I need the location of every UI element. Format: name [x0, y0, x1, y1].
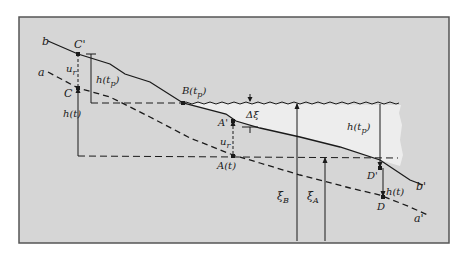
seepage-diagram: b b' a a' C' C B(tp) A' A(t) D' D ur h(t… [0, 0, 466, 271]
label-a-point: A(t) [216, 160, 236, 171]
label-a: a [38, 66, 45, 79]
label-a-prime-point: A' [217, 117, 228, 128]
point-d-prime [378, 166, 382, 170]
point-d [381, 195, 385, 199]
label-h-t-right: h(t) [386, 186, 404, 197]
point-a-prime [231, 119, 235, 123]
point-a [231, 154, 235, 158]
label-h-t-left: h(t) [63, 108, 81, 119]
label-a-prime: a' [414, 212, 424, 225]
label-d-prime: D' [366, 170, 378, 181]
label-c-lower: C [64, 87, 73, 100]
point-c-lower [76, 86, 80, 90]
label-d: D [376, 201, 385, 212]
label-b: b [42, 35, 49, 48]
label-c-upper: C' [74, 38, 85, 51]
point-b [181, 101, 185, 105]
label-delta-xi: Δξ [245, 109, 259, 120]
point-c-upper [76, 52, 80, 56]
label-b-prime: b' [416, 180, 426, 193]
